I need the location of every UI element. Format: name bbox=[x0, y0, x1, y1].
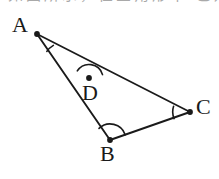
vertex-dot-group bbox=[34, 31, 193, 143]
segment-BC bbox=[110, 112, 190, 140]
segment-AC bbox=[37, 34, 190, 112]
angle-arc-group bbox=[47, 45, 174, 134]
vertex-dot-A bbox=[34, 31, 40, 37]
vertex-label-d: D bbox=[82, 82, 98, 104]
vertex-label-b: B bbox=[100, 143, 115, 165]
geometry-figure: 如图所示，在三角形中 已知 A D C B bbox=[0, 0, 219, 179]
vertex-dot-C bbox=[187, 109, 193, 115]
vertex-label-c: C bbox=[196, 96, 211, 118]
vertex-label-a: A bbox=[12, 14, 28, 36]
angle-arc-C bbox=[173, 106, 174, 118]
